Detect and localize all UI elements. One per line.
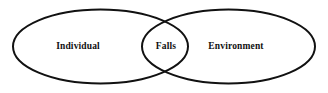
diagram-background bbox=[0, 0, 328, 93]
venn-diagram: Individual Falls Environment bbox=[0, 0, 328, 93]
venn-diagram-canvas bbox=[0, 0, 328, 93]
